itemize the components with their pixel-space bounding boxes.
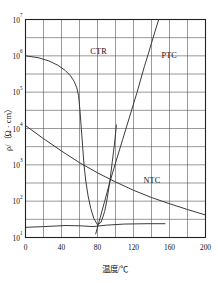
y-tick-label: 101 (13, 230, 23, 242)
y-axis-title: ρ/（Ω · cm） (4, 105, 13, 151)
y-tick-label: 105 (13, 85, 23, 97)
x-tick-label: 160 (164, 243, 175, 252)
resistivity-temperature-chart: 101102103104105106107 04080120160200 CTR… (0, 0, 218, 283)
x-tick-label: 40 (58, 243, 66, 252)
x-axis-title: 温度/℃ (102, 264, 129, 274)
y-tick-label: 103 (13, 157, 23, 169)
y-axis-tick-labels: 101102103104105106107 (13, 12, 23, 242)
curve-ctr (26, 56, 117, 225)
curve-label-ntc: NTC (143, 176, 160, 185)
chart-container: 101102103104105106107 04080120160200 CTR… (0, 0, 218, 283)
x-tick-label: 0 (24, 243, 28, 252)
curve-ptc-baseline (26, 224, 166, 228)
y-tick-label: 102 (13, 194, 23, 206)
x-tick-label: 200 (200, 243, 211, 252)
curve-annotations: CTRPTCNTC (90, 47, 177, 185)
y-tick-label: 104 (13, 121, 23, 133)
x-tick-label: 80 (94, 243, 102, 252)
x-tick-label: 120 (128, 243, 139, 252)
y-tick-label: 107 (13, 12, 23, 24)
grid-lines (26, 20, 206, 238)
y-tick-label: 106 (13, 48, 23, 60)
curve-label-ptc: PTC (161, 51, 177, 60)
x-axis-tick-labels: 04080120160200 (24, 243, 212, 252)
curve-label-ctr: CTR (90, 47, 107, 56)
